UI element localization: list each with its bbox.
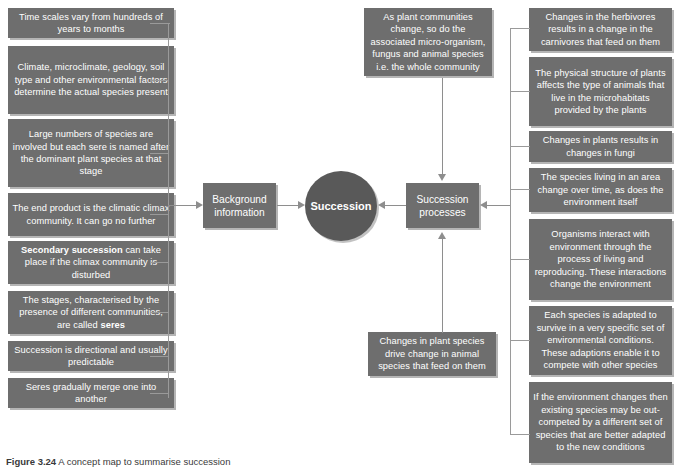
node-adapted-species: Each species is adapted to survive in a …	[529, 306, 672, 375]
arrow-background-to-core-head	[298, 201, 305, 209]
left-connector-6	[150, 312, 169, 313]
node-out-competed: If the environment changes then existing…	[529, 382, 672, 463]
right-connector-6	[510, 340, 530, 341]
node-physical-structure: The physical structure of plants affects…	[529, 57, 672, 126]
node-species-change-time-label: The species living in an area change ove…	[533, 171, 668, 208]
left-connector-7	[150, 356, 169, 357]
core-succession: Succession	[305, 171, 377, 241]
hub-succession-processes-label: Succession processes	[406, 193, 479, 219]
node-plant-to-animal: Changes in plant species drive change in…	[368, 332, 496, 376]
node-out-competed-label: If the environment changes then existing…	[533, 391, 668, 453]
node-herbivores-carnivores: Changes in the herbivores results in a c…	[529, 8, 672, 51]
node-plants-fungi: Changes in plants results in changes in …	[529, 131, 672, 162]
node-stages-seres-label: The stages, characterised by the presenc…	[12, 294, 170, 331]
node-climate-factors-label: Climate, microclimate, geology, soil typ…	[12, 61, 170, 98]
right-connector-2	[510, 91, 530, 92]
hub-succession-processes: Succession processes	[406, 183, 479, 228]
left-connector-5	[150, 262, 169, 263]
left-connector-4	[150, 214, 169, 215]
arrow-processes-to-core	[385, 205, 407, 206]
right-connector-4	[510, 189, 530, 190]
right-bracket-spine	[510, 28, 511, 434]
arrow-left-to-background-head	[196, 201, 203, 209]
node-herbivores-carnivores-label: Changes in the herbivores results in a c…	[533, 11, 668, 48]
node-adapted-species-label: Each species is adapted to survive in a …	[533, 309, 668, 371]
node-seres-merge-label: Seres gradually merge one into another	[12, 381, 170, 406]
hub-background-information-label: Background information	[203, 193, 276, 219]
right-connector-1	[510, 28, 530, 29]
node-plant-to-animal-label: Changes in plant species drive change in…	[372, 335, 492, 372]
node-organisms-interact-label: Organisms interact with environment thro…	[533, 228, 668, 290]
left-box-stub-1	[150, 23, 169, 24]
core-succession-label: Succession	[310, 200, 371, 212]
figure-caption: Figure 3.24 A concept map to summarise s…	[6, 456, 230, 467]
node-secondary-succession-label: Secondary succession can take place if t…	[12, 244, 170, 281]
node-whole-community: As plant communities change, so do the a…	[364, 8, 492, 76]
arrow-background-to-core	[277, 205, 300, 206]
arrow-right-to-processes	[487, 205, 511, 206]
arrow-left-to-background	[168, 205, 198, 206]
node-directional-label: Succession is directional and usually pr…	[12, 344, 170, 369]
right-connector-5	[510, 259, 530, 260]
hub-background-information: Background information	[203, 183, 276, 228]
arrow-top-to-processes	[442, 78, 443, 175]
arrow-top-to-processes-head	[438, 174, 446, 181]
node-end-product-label: The end product is the climatic climax c…	[12, 202, 170, 227]
left-connector-3	[150, 153, 169, 154]
left-connector-2	[150, 80, 169, 81]
concept-map-diagram: Time scales vary from hundreds of years …	[0, 0, 679, 468]
node-time-scales-label: Time scales vary from hundreds of years …	[12, 11, 170, 36]
arrow-bottom-to-processes-head	[438, 232, 446, 239]
arrow-processes-to-core-head	[378, 201, 385, 209]
node-plants-fungi-label: Changes in plants results in changes in …	[533, 134, 668, 159]
right-connector-3	[510, 146, 530, 147]
figure-caption-number: Figure 3.24	[6, 456, 56, 467]
right-connector-7	[510, 434, 530, 435]
node-species-change-time: The species living in an area change ove…	[529, 168, 672, 212]
node-large-numbers-label: Large numbers of species are involved bu…	[12, 128, 170, 178]
node-whole-community-label: As plant communities change, so do the a…	[368, 11, 488, 73]
node-physical-structure-label: The physical structure of plants affects…	[533, 67, 668, 117]
arrow-bottom-to-processes	[442, 238, 443, 333]
figure-caption-text: A concept map to summarise succession	[58, 456, 230, 467]
arrow-right-to-processes-head	[480, 201, 487, 209]
left-connector-8	[150, 393, 169, 394]
node-organisms-interact: Organisms interact with environment thro…	[529, 219, 672, 300]
